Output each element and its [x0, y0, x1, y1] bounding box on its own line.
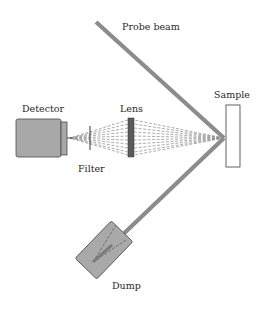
sample-label: Sample — [214, 90, 250, 100]
detector — [16, 119, 72, 157]
diagram-svg — [0, 0, 260, 309]
probe-beam-label: Probe beam — [122, 22, 180, 32]
filter-label: Filter — [78, 164, 105, 174]
sample — [226, 105, 240, 167]
probe-beam — [96, 22, 224, 138]
diagram-canvas: Probe beam Detector Lens Sample Filter D… — [0, 0, 260, 309]
dump-label: Dump — [112, 281, 141, 291]
beam-dump — [75, 221, 133, 279]
dump-body — [75, 221, 133, 279]
lens — [128, 118, 134, 157]
detector-body — [16, 119, 61, 157]
detector-flange — [61, 122, 67, 155]
focused-light-fan — [70, 120, 128, 155]
lens-label: Lens — [120, 104, 143, 114]
detector-label: Detector — [22, 104, 64, 114]
